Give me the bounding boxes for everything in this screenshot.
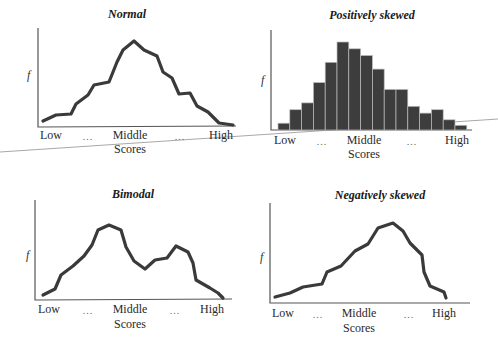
x-axis-label: Scores — [343, 321, 375, 336]
x-tick-low: Low — [272, 306, 294, 321]
frequency-curve — [275, 223, 446, 298]
x-tick-ellipsis: ... — [313, 309, 324, 320]
x-tick-ellipsis: ... — [404, 309, 415, 320]
x-tick-middle: Middle — [342, 306, 377, 321]
x-tick-high: High — [432, 306, 456, 321]
plot-area — [0, 0, 498, 353]
